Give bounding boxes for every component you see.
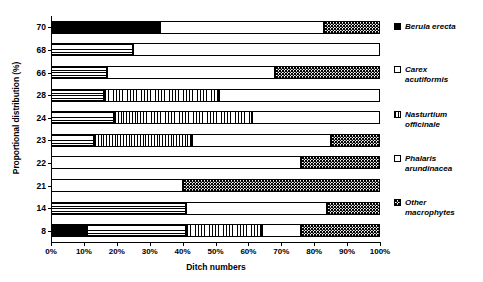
bar-segment-8-phalaris-arundinacea xyxy=(262,224,301,237)
bar-segment-8-nasturtium-officinale xyxy=(186,224,262,237)
bar-70 xyxy=(51,21,380,34)
legend-swatch-icon xyxy=(394,155,401,162)
x-tick-mark xyxy=(216,242,217,246)
bar-14 xyxy=(51,202,380,215)
bar-segment-21-phalaris-arundinacea xyxy=(51,179,183,192)
bar-segment-66-phalaris-arundinacea xyxy=(107,66,275,79)
bar-segment-14-carex-acutiformis xyxy=(51,202,186,215)
bar-segment-8-carex-acutiformis xyxy=(87,224,186,237)
bar-segment-22-other-macrophytes xyxy=(301,156,380,169)
y-tick-label-23: 23 xyxy=(37,135,46,145)
x-tick-mark xyxy=(380,242,381,246)
y-tick-label-70: 70 xyxy=(37,22,46,32)
legend-item-phalaris[interactable]: Phalaris arundinacea xyxy=(394,154,452,173)
bar-segment-24-carex-acutiformis xyxy=(51,111,114,124)
x-tick-label-50: 50% xyxy=(207,247,223,256)
x-tick-label-40: 40% xyxy=(175,247,191,256)
y-axis-title: Proportional distribution (%) xyxy=(11,18,21,218)
x-tick-mark xyxy=(347,242,348,246)
bar-8 xyxy=(51,224,380,237)
bar-segment-8-other-macrophytes xyxy=(301,224,380,237)
x-tick-label-30: 30% xyxy=(142,247,158,256)
bar-segment-21-other-macrophytes xyxy=(183,179,380,192)
bar-segment-14-other-macrophytes xyxy=(327,202,380,215)
bar-segment-24-nasturtium-officinale xyxy=(114,111,252,124)
bar-segment-68-phalaris-arundinacea xyxy=(133,43,380,56)
bar-24 xyxy=(51,111,380,124)
y-tick-label-66: 66 xyxy=(37,68,46,78)
bar-segment-23-carex-acutiformis xyxy=(51,134,94,147)
x-tick-mark xyxy=(150,242,151,246)
bar-segment-28-nasturtium-officinale xyxy=(104,89,219,102)
legend-item-berula erecta[interactable]: Berula erecta xyxy=(394,22,456,32)
legend-swatch-icon xyxy=(394,111,401,118)
x-tick-mark xyxy=(281,242,282,246)
bar-segment-66-carex-acutiformis xyxy=(51,66,107,79)
x-tick-mark xyxy=(183,242,184,246)
bar-segment-70-berula-erecta xyxy=(51,21,160,34)
y-tick-label-28: 28 xyxy=(37,90,46,100)
x-axis-title: Ditch numbers xyxy=(51,262,381,272)
x-tick-label-20: 20% xyxy=(109,247,125,256)
bar-segment-22-phalaris-arundinacea xyxy=(51,156,301,169)
x-tick-mark xyxy=(314,242,315,246)
chart-figure: Proportional distribution (%) 7068662824… xyxy=(0,0,483,282)
legend-swatch-icon xyxy=(394,66,401,73)
x-tick-label-0: 0% xyxy=(45,247,57,256)
legend-swatch-icon xyxy=(394,23,401,30)
bar-68 xyxy=(51,43,380,56)
bar-segment-14-phalaris-arundinacea xyxy=(186,202,327,215)
y-tick-label-22: 22 xyxy=(37,158,46,168)
legend-item-other[interactable]: Other macrophytes xyxy=(394,198,455,217)
y-tick-label-21: 21 xyxy=(37,181,46,191)
bar-segment-70-phalaris-arundinacea xyxy=(160,21,325,34)
plot-area: 7068662824232221148 xyxy=(51,16,380,242)
x-tick-mark xyxy=(84,242,85,246)
bar-segment-23-other-macrophytes xyxy=(331,134,380,147)
legend-item-nasturtium[interactable]: Nasturtium officinale xyxy=(394,110,447,129)
x-tick-mark xyxy=(117,242,118,246)
bar-21 xyxy=(51,179,380,192)
bar-28 xyxy=(51,89,380,102)
bar-segment-28-carex-acutiformis xyxy=(51,89,104,102)
y-tick-label-14: 14 xyxy=(37,203,46,213)
legend-label: Other macrophytes xyxy=(405,198,455,217)
legend-item-carex[interactable]: Carex acutiformis xyxy=(394,65,448,84)
y-tick-label-24: 24 xyxy=(37,113,46,123)
x-tick-mark xyxy=(248,242,249,246)
x-tick-label-10: 10% xyxy=(76,247,92,256)
x-tick-label-90: 90% xyxy=(339,247,355,256)
x-tick-label-70: 70% xyxy=(273,247,289,256)
legend-label: Nasturtium officinale xyxy=(405,110,447,129)
bar-segment-24-phalaris-arundinacea xyxy=(252,111,380,124)
x-tick-label-60: 60% xyxy=(240,247,256,256)
x-tick-label-100: 100% xyxy=(370,247,390,256)
legend-label: Phalaris arundinacea xyxy=(405,154,452,173)
legend-label: Berula erecta xyxy=(405,22,456,32)
bar-66 xyxy=(51,66,380,79)
y-tick-label-8: 8 xyxy=(41,226,46,236)
bar-segment-8-berula-erecta xyxy=(51,224,87,237)
x-tick-mark xyxy=(51,242,52,246)
bar-22 xyxy=(51,156,380,169)
bar-segment-68-carex-acutiformis xyxy=(51,43,133,56)
y-tick-label-68: 68 xyxy=(37,45,46,55)
bar-segment-28-phalaris-arundinacea xyxy=(219,89,380,102)
legend-swatch-icon xyxy=(394,199,401,206)
bar-segment-23-phalaris-arundinacea xyxy=(192,134,330,147)
bar-23 xyxy=(51,134,380,147)
bar-segment-66-other-macrophytes xyxy=(275,66,380,79)
legend-label: Carex acutiformis xyxy=(405,65,448,84)
bar-segment-23-nasturtium-officinale xyxy=(94,134,193,147)
bar-segment-70-other-macrophytes xyxy=(324,21,380,34)
x-tick-label-80: 80% xyxy=(306,247,322,256)
